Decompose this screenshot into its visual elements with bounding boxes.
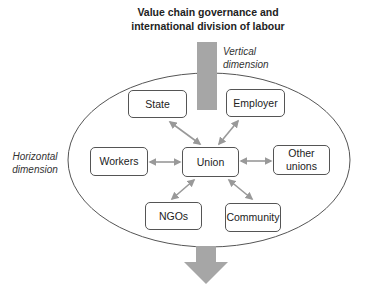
- node-workers-label: Workers: [100, 155, 139, 168]
- connector-union-ngos: [172, 180, 194, 199]
- vertical-label-line-1: Vertical: [223, 45, 269, 58]
- vertical-label-line-2: dimension: [223, 58, 269, 71]
- node-other-unions-label-2: unions: [286, 160, 317, 173]
- node-union: Union: [182, 147, 239, 177]
- vertical-dimension-label: Vertical dimension: [223, 45, 269, 71]
- node-employer-label: Employer: [233, 97, 277, 110]
- connector-employer-union: [219, 121, 238, 144]
- node-ngos: NGOs: [145, 202, 202, 230]
- horizontal-label-line-1: Horizontal: [11, 150, 59, 163]
- diagram-title: Value chain governance and international…: [118, 5, 298, 33]
- title-line-1: Value chain governance and: [118, 5, 298, 19]
- down-arrow-icon: [184, 246, 228, 284]
- node-ngos-label: NGOs: [159, 210, 188, 223]
- node-state: State: [128, 90, 187, 118]
- node-union-label: Union: [197, 156, 224, 169]
- diagram-canvas: Value chain governance and international…: [0, 0, 367, 297]
- connector-union-community: [229, 180, 252, 199]
- node-state-label: State: [145, 98, 170, 111]
- node-workers: Workers: [90, 147, 148, 176]
- horizontal-dimension-label: Horizontal dimension: [11, 150, 59, 176]
- node-community-label: Community: [226, 211, 279, 224]
- connector-state-union: [170, 122, 200, 144]
- node-community: Community: [225, 203, 281, 232]
- horizontal-label-line-2: dimension: [11, 163, 59, 176]
- vertical-dimension-bar: [197, 42, 217, 110]
- title-line-2: international division of labour: [118, 19, 298, 33]
- node-other-unions: Other unions: [273, 145, 330, 175]
- node-other-unions-label-1: Other: [288, 147, 314, 160]
- node-employer: Employer: [226, 89, 285, 117]
